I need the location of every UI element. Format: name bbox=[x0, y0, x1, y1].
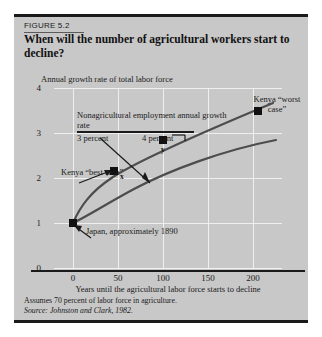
curve-3-percent bbox=[73, 140, 276, 223]
marker-label-y: y bbox=[161, 145, 165, 154]
annotation-nonag-heading: Nonagricultural employment annual growth… bbox=[77, 110, 227, 130]
y-tick-1: 1 bbox=[27, 218, 41, 228]
arrow-3-percent-head bbox=[142, 172, 150, 183]
x-axis-label: Years until the agricultural labor force… bbox=[31, 284, 305, 294]
x-tick-50: 50 bbox=[106, 273, 130, 283]
annotation-kenya-best-case: Kenya “best case” bbox=[61, 167, 123, 177]
annotation-4-percent: 4 percent bbox=[142, 133, 173, 143]
y-tick-4: 4 bbox=[27, 83, 41, 93]
y-tick-2: 2 bbox=[27, 173, 41, 183]
y-tick-3: 3 bbox=[27, 128, 41, 138]
x-tick-200: 200 bbox=[241, 273, 265, 283]
figure-number: FIGURE 5.2 bbox=[24, 21, 70, 30]
x-tick-0: 0 bbox=[61, 273, 85, 283]
marker-japan bbox=[69, 219, 77, 227]
x-axis-line bbox=[31, 270, 305, 272]
x-tick-100: 100 bbox=[151, 273, 175, 283]
gridline-y-0 bbox=[54, 268, 282, 269]
figure-footnote: Assumes 70 percent of labor force in agr… bbox=[24, 296, 177, 305]
top-rule bbox=[14, 14, 308, 17]
bottom-rule bbox=[14, 320, 308, 323]
figure-title: When will the number of agricultural wor… bbox=[24, 33, 300, 60]
annotation-3-percent: 3 percent bbox=[77, 133, 108, 143]
annotation-kenya-worst-case: Kenya “worst case” bbox=[246, 94, 308, 114]
x-tick-150: 150 bbox=[196, 273, 220, 283]
annotation-japan: Japan, approximately 1890 bbox=[86, 226, 178, 236]
figure-panel: FIGURE 5.2 When will the number of agric… bbox=[14, 14, 308, 323]
y-axis-label: Annual growth rate of total labor force bbox=[41, 74, 173, 84]
figure-source: Source: Johnston and Clark, 1982. bbox=[24, 306, 133, 315]
